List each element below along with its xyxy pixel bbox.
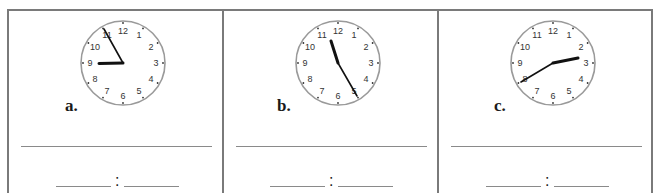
clock-face-icon: 12 1 2 3 4 5 6 7 8 9 10 11 <box>294 19 382 107</box>
clock-label-b: b. <box>277 96 291 116</box>
svg-text:9: 9 <box>517 58 522 68</box>
svg-text:3: 3 <box>368 58 373 68</box>
clock-face-icon: 12 1 2 3 4 5 6 7 8 9 10 11 <box>79 19 167 107</box>
svg-text:4: 4 <box>578 74 583 84</box>
svg-text:10: 10 <box>305 42 315 52</box>
svg-text:6: 6 <box>120 91 125 101</box>
svg-text:1: 1 <box>351 30 356 40</box>
answer-writing-line[interactable] <box>236 146 427 147</box>
svg-text:11: 11 <box>532 30 541 40</box>
svg-text:11: 11 <box>317 30 326 40</box>
column-divider <box>222 9 224 193</box>
answer-writing-line[interactable] <box>21 146 212 147</box>
svg-text:7: 7 <box>104 86 109 96</box>
svg-text:8: 8 <box>307 74 312 84</box>
svg-text:10: 10 <box>520 42 530 52</box>
svg-text:4: 4 <box>148 74 153 84</box>
svg-text:1: 1 <box>136 30 141 40</box>
minute-answer-blank[interactable] <box>554 186 609 187</box>
svg-text:12: 12 <box>118 26 128 36</box>
minute-answer-blank[interactable] <box>124 186 179 187</box>
hour-answer-blank[interactable] <box>270 186 325 187</box>
svg-text:4: 4 <box>363 74 368 84</box>
svg-text:6: 6 <box>335 91 340 101</box>
hour-answer-blank[interactable] <box>56 186 111 187</box>
svg-text:2: 2 <box>363 42 368 52</box>
svg-text:1: 1 <box>566 30 571 40</box>
svg-text:9: 9 <box>302 58 307 68</box>
clock-face-icon: 12 1 2 3 4 5 6 7 8 9 10 11 <box>509 19 597 107</box>
svg-text:12: 12 <box>548 26 558 36</box>
answer-writing-line[interactable] <box>451 146 642 147</box>
svg-text:6: 6 <box>550 91 555 101</box>
hour-answer-blank[interactable] <box>486 186 541 187</box>
minute-answer-blank[interactable] <box>338 186 393 187</box>
svg-text:9: 9 <box>87 58 92 68</box>
hour-hand <box>99 63 123 64</box>
time-colon: : <box>115 174 119 188</box>
svg-text:10: 10 <box>90 42 100 52</box>
time-colon: : <box>545 174 549 188</box>
svg-text:5: 5 <box>136 86 141 96</box>
svg-text:2: 2 <box>578 42 583 52</box>
svg-text:8: 8 <box>92 74 97 84</box>
clock-label-c: c. <box>494 96 506 116</box>
clock-label-a: a. <box>65 96 78 116</box>
svg-text:5: 5 <box>566 86 571 96</box>
svg-text:7: 7 <box>534 86 539 96</box>
svg-text:12: 12 <box>333 26 343 36</box>
column-divider <box>437 9 439 193</box>
svg-text:3: 3 <box>583 58 588 68</box>
svg-text:7: 7 <box>319 86 324 96</box>
time-colon: : <box>329 174 333 188</box>
svg-text:3: 3 <box>153 58 158 68</box>
svg-text:2: 2 <box>148 42 153 52</box>
